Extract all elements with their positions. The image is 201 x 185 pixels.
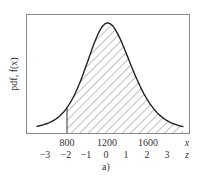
shaded-area [67,23,183,133]
z-tick-3: 3 [165,150,170,160]
z-tick-minus1: −1 [81,150,92,160]
y-axis-label: pdf, f(x) [8,57,19,90]
x-tick-1600: 1600 [138,138,158,148]
z-tick-1: 1 [124,150,129,160]
x-tick-1200: 1200 [97,138,117,148]
x-tick-800: 800 [60,138,75,148]
z-tick-0: 0 [104,150,109,160]
pdf-chart [0,0,201,185]
z-tick-2: 2 [145,150,150,160]
figure-caption: a) [102,162,110,172]
z-tick-minus2: −2 [61,150,72,160]
z-tick-minus3: −3 [40,150,51,160]
z-axis-label: z [185,150,189,160]
x-axis-label: x [185,138,189,148]
